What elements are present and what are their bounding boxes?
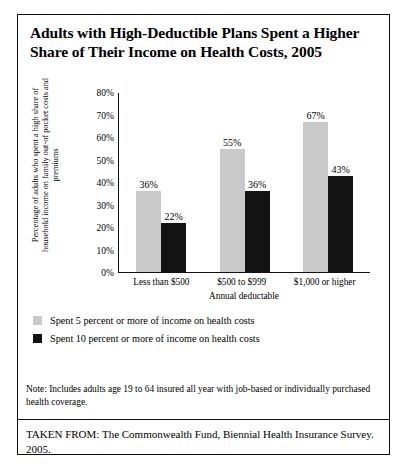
y-axis-tick-label: 20% (97, 223, 114, 233)
bar-groups: 36%22%55%36%67%43% (119, 93, 370, 272)
y-axis-tick-label: 60% (97, 133, 114, 143)
y-axis-tick-label: 70% (97, 111, 114, 121)
legend-swatch (33, 316, 42, 325)
source-divider (18, 419, 389, 420)
figure-source: TAKEN FROM: The Commonwealth Fund, Bienn… (26, 427, 376, 457)
y-axis-tick-label: 50% (97, 156, 114, 166)
figure-page: Adults with High-Deductible Plans Spent … (0, 0, 408, 469)
bar-chart: Percentage of adults who spent a high sh… (18, 75, 389, 307)
bar-value-label: 43% (332, 164, 350, 175)
chart-legend: Spent 5 percent or more of income on hea… (33, 315, 378, 351)
bar: 22% (161, 223, 186, 272)
x-axis-category-label: $1,000 or higher (294, 277, 356, 287)
bar: 36% (245, 191, 270, 271)
figure-frame: Adults with High-Deductible Plans Spent … (17, 14, 390, 455)
bar-value-label: 22% (164, 211, 182, 222)
legend-label: Spent 5 percent or more of income on hea… (50, 315, 255, 326)
legend-label: Spent 10 percent or more of income on he… (50, 333, 260, 344)
y-axis-tick-label: 40% (97, 178, 114, 188)
bar-value-label: 36% (248, 179, 266, 190)
legend-item: Spent 10 percent or more of income on he… (33, 333, 378, 344)
bar: 67% (303, 122, 328, 272)
legend-item: Spent 5 percent or more of income on hea… (33, 315, 378, 326)
y-axis-tick-label: 10% (97, 246, 114, 256)
plot-area: 80%70%60%50%40%30%20%10%0% 36%22%55%36%6… (118, 93, 370, 273)
y-axis-tick-label: 30% (97, 201, 114, 211)
bar: 36% (136, 191, 161, 271)
legend-swatch (33, 334, 42, 343)
x-axis-title: Annual deductable (118, 291, 370, 301)
page-title: Adults with High-Deductible Plans Spent … (30, 23, 378, 61)
y-axis-title: Percentage of adults who spent a high sh… (31, 75, 61, 255)
bar-group: 67%43% (303, 93, 353, 272)
x-axis-category-label: $500 to $999 (217, 277, 266, 287)
y-axis-tick-label: 0% (101, 268, 114, 278)
x-axis-line (118, 272, 370, 273)
bar-value-label: 55% (223, 137, 241, 148)
bar-group: 55%36% (220, 93, 270, 272)
y-axis-tick-label: 80% (97, 88, 114, 98)
bar: 43% (328, 176, 353, 272)
figure-note: Note: Includes adults age 19 to 64 insur… (26, 383, 384, 408)
x-axis-category-labels: Less than $500$500 to $999$1,000 or high… (119, 277, 369, 287)
bar-value-label: 36% (139, 179, 157, 190)
x-axis-category-label: Less than $500 (133, 277, 189, 287)
bar: 55% (220, 149, 245, 272)
bar-group: 36%22% (136, 93, 186, 272)
bar-value-label: 67% (307, 110, 325, 121)
